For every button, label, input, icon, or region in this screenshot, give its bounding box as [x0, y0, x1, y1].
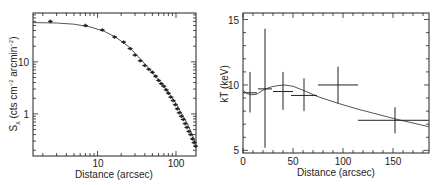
right-plot-frame	[243, 13, 429, 153]
temperature-profile-chart: 0 50 100 150 5 10 15 Distance (arcsec) k…	[0, 0, 438, 185]
y-tick-15: 15	[228, 15, 240, 26]
x-tick-150: 150	[385, 156, 402, 167]
right-y-axis-label: kT (keV)	[219, 65, 230, 103]
y-tick-5: 5	[233, 145, 239, 156]
x-tick-100: 100	[335, 156, 352, 167]
right-x-axis-label: Distance (arcsec)	[297, 167, 375, 178]
x-tick-50: 50	[287, 156, 299, 167]
temperature-error-bars	[243, 29, 429, 148]
right-x-tick-labels: 0 50 100 150	[240, 156, 402, 167]
right-axis-ticks	[243, 13, 429, 153]
x-tick-0: 0	[240, 156, 246, 167]
